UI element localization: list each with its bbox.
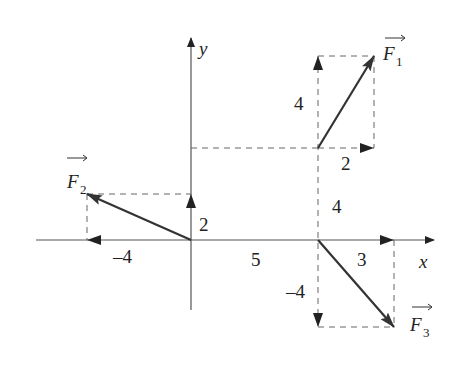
vector-f1 — [318, 56, 374, 148]
offset-x-label: 5 — [251, 249, 261, 270]
svg-text:F: F — [382, 43, 395, 64]
label-f3: F 3 — [409, 304, 432, 340]
f3-y-component: –4 — [285, 281, 306, 302]
vector-f2 — [87, 194, 191, 240]
svg-text:F: F — [66, 171, 79, 192]
f1-x-component: 2 — [341, 153, 351, 174]
svg-text:F: F — [409, 314, 422, 335]
label-f1: F 1 — [382, 35, 405, 69]
vector-f3 — [318, 240, 394, 327]
x-axis-label: x — [418, 251, 428, 272]
component-arrows — [87, 56, 394, 327]
f3-x-component: 3 — [357, 249, 367, 270]
svg-text:1: 1 — [396, 54, 403, 69]
force-vectors — [87, 56, 394, 327]
f2-y-component: 2 — [199, 214, 209, 235]
label-f2: F 2 — [66, 155, 87, 197]
offset-y-label: 4 — [332, 196, 342, 217]
svg-text:3: 3 — [423, 325, 430, 340]
f2-x-component: –4 — [112, 246, 133, 267]
svg-text:2: 2 — [80, 182, 87, 197]
vector-diagram: x y F 1 F — [0, 0, 459, 366]
dashed-guides — [87, 56, 394, 327]
component-labels: 4 2 2 –4 3 –4 5 4 — [112, 93, 367, 302]
y-axis-label: y — [197, 38, 208, 59]
vector-labels: F 1 F 2 F 3 — [66, 35, 432, 340]
f1-y-component: 4 — [294, 93, 304, 114]
